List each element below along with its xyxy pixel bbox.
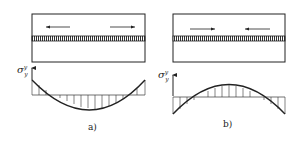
weld-stress-diagram: σyy a) σyy [0, 0, 305, 143]
caption-b: b) [223, 119, 232, 129]
weld-seam-b [173, 36, 285, 41]
weld-seam-a [32, 36, 145, 41]
caption-a: a) [88, 122, 97, 132]
stress-axis-label-b: σyy [158, 68, 169, 83]
panel-a: σyy a) [17, 14, 145, 132]
panel-b: σyy b) [158, 14, 285, 129]
stress-axis-label-a: σyy [17, 63, 28, 78]
